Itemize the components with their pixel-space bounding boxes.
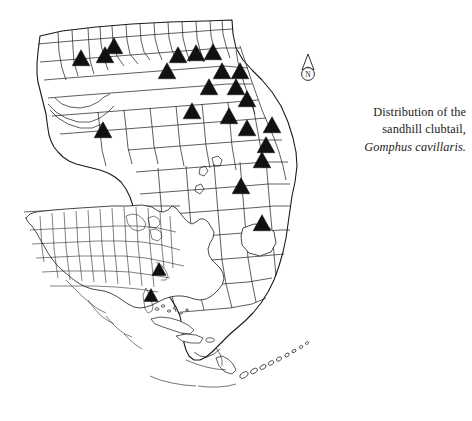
north-america-inset — [24, 205, 236, 387]
caption-line-1: Distribution of the — [318, 104, 466, 121]
florida-keys — [216, 341, 309, 379]
map-canvas: N — [0, 0, 472, 421]
north-arrow-icon: N — [302, 54, 315, 80]
caption-line-2: sandhill clubtail, — [318, 121, 466, 138]
north-arrow-label: N — [305, 70, 311, 79]
caption-species-name: Gomphus cavillaris. — [318, 139, 466, 156]
distribution-map-figure: N Distribution of the sandhill clubtail,… — [0, 0, 472, 421]
figure-caption: Distribution of the sandhill clubtail, G… — [318, 104, 466, 156]
